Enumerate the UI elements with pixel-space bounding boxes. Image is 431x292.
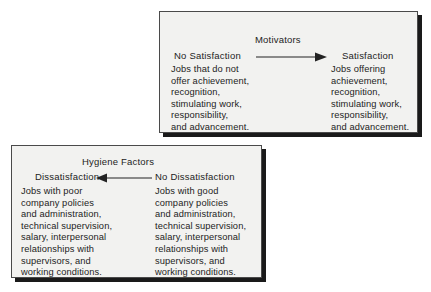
hygiene-arrow-left-icon (96, 171, 152, 185)
motivators-right-pole-label: Satisfaction (342, 50, 394, 61)
hygiene-panel: Hygiene Factors Dissatisfaction No Dissa… (11, 145, 262, 278)
motivators-panel: Motivators No Satisfaction Satisfaction … (159, 11, 418, 133)
hygiene-right-body: Jobs with good company policies and admi… (155, 186, 285, 279)
diagram-canvas: Motivators No Satisfaction Satisfaction … (0, 0, 431, 292)
motivators-heading: Motivators (255, 34, 301, 45)
hygiene-right-pole-label: No Dissatisfaction (155, 171, 235, 182)
hygiene-heading: Hygiene Factors (82, 156, 154, 167)
motivators-left-pole-label: No Satisfaction (174, 50, 241, 61)
motivators-arrow-right-icon (256, 50, 328, 64)
hygiene-left-body: Jobs with poor company policies and admi… (21, 186, 151, 279)
motivators-left-body: Jobs that do not offer achievement, reco… (171, 64, 291, 134)
motivators-right-body: Jobs offering achievement, recognition, … (331, 64, 431, 134)
hygiene-left-pole-label: Dissatisfaction (35, 171, 99, 182)
